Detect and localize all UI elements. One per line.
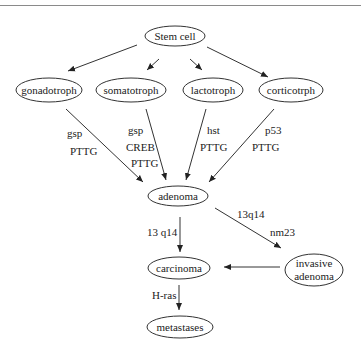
edge-label-adenoma-carcinoma: 13 q14 [147, 226, 177, 238]
edge-stem-somatotroph [147, 59, 159, 70]
node-adenoma: adenoma [148, 186, 208, 206]
edge-stem-lactotroph [190, 59, 202, 70]
diagram-canvas [0, 0, 361, 353]
edge-label-lacto-pttg: PTTG [200, 141, 228, 153]
edge-label-somato-pttg: PTTG [131, 157, 159, 169]
edge-label-somato-gsp: gsp [128, 124, 143, 136]
edge-label-adenoma-invasive-nm23: nm23 [270, 226, 295, 238]
edge-label-cortico-p53: p53 [265, 124, 282, 136]
node-stem-cell: Stem cell [145, 26, 205, 46]
edge-stem-gonadotroph [68, 45, 137, 71]
edge-label-adenoma-invasive-13q14: 13q14 [237, 208, 265, 220]
node-somatotroph: somatotroph [96, 78, 166, 102]
node-invasive-adenoma-line1: invasive [296, 257, 333, 270]
node-carcinoma: carcinoma [148, 257, 210, 279]
node-lactotroph: lactotroph [183, 78, 243, 102]
edge-label-gonado-pttg: PTTG [70, 145, 98, 157]
node-corticotroph: corticotrph [259, 78, 323, 102]
edge-label-cortico-pttg: PTTG [252, 141, 280, 153]
edge-label-gonado-gsp: gsp [67, 127, 82, 139]
edge-stem-corticotroph [207, 47, 268, 77]
edge-label-somato-creb: CREB [126, 141, 155, 153]
node-metastases: metastases [147, 316, 213, 338]
edge-label-lacto-hst: hst [207, 124, 220, 136]
node-invasive-adenoma: invasive adenoma [285, 254, 343, 286]
node-invasive-adenoma-line2: adenoma [294, 270, 334, 283]
node-gonadotroph: gonadotroph [16, 78, 82, 102]
edge-label-carcinoma-metastases: H-ras [152, 289, 176, 301]
